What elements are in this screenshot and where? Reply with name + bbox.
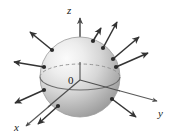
figure-canvas: z y x 0 xyxy=(0,0,172,136)
normal-base-dot xyxy=(91,39,95,43)
sphere-normal-vectors-figure: z y x 0 xyxy=(0,0,172,136)
normal-base-dot xyxy=(50,48,54,52)
normal-vector xyxy=(101,22,117,50)
origin-label: 0 xyxy=(68,74,74,86)
normal-vector xyxy=(111,37,139,61)
normal-vector xyxy=(15,88,46,103)
normal-base-dot xyxy=(42,65,46,69)
normal-base-dot xyxy=(110,97,114,101)
normal-base-dot xyxy=(56,104,60,108)
normal-vector xyxy=(110,97,136,117)
y-axis-label: y xyxy=(157,107,163,119)
normal-base-dot xyxy=(114,65,118,69)
z-axis-label: z xyxy=(66,4,72,16)
normal-base-dot xyxy=(101,46,105,50)
x-axis-label: x xyxy=(13,121,19,133)
normal-base-dot xyxy=(111,57,115,61)
normal-vector xyxy=(30,32,54,52)
normal-base-dot xyxy=(42,88,46,92)
